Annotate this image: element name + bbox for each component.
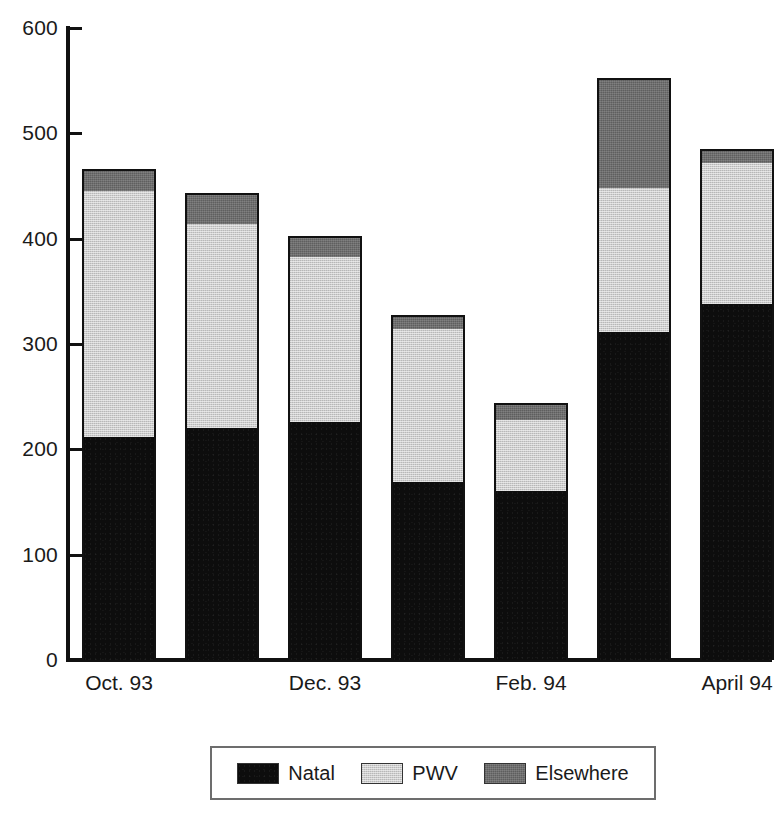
legend-item[interactable]: PWV	[361, 763, 458, 784]
x-axis-label: April 94	[682, 672, 778, 693]
bar-segment-elsewhere	[700, 149, 774, 163]
legend-item[interactable]: Natal	[237, 763, 335, 784]
bar-segment-natal	[597, 332, 671, 660]
bar-segment-pwv	[391, 329, 465, 482]
legend-label: PWV	[412, 763, 458, 783]
bar-segment-natal	[391, 482, 465, 660]
bar-segment-pwv	[288, 257, 362, 422]
bar-segment-pwv	[185, 224, 259, 428]
legend-item[interactable]: Elsewhere	[484, 763, 628, 784]
bar-segment-elsewhere	[82, 169, 156, 191]
bar-segment-natal	[700, 304, 774, 660]
bar-segment-elsewhere	[597, 78, 671, 189]
x-axis-label: Oct. 93	[64, 672, 174, 693]
legend-label: Natal	[288, 763, 335, 783]
bar-segment-elsewhere	[288, 236, 362, 257]
bar-column	[597, 78, 671, 660]
bar-segment-natal	[185, 428, 259, 660]
chart-legend: NatalPWVElsewhere	[210, 746, 656, 800]
bar-segment-pwv	[597, 188, 671, 332]
natal-swatch	[237, 763, 279, 784]
stacked-bar-chart: 6005004003002001000 Oct. 93Dec. 93Feb. 9…	[0, 0, 778, 822]
x-axis-label: Dec. 93	[270, 672, 380, 693]
elsewhere-swatch	[484, 763, 526, 784]
bar-segment-pwv	[494, 420, 568, 492]
bar-segment-natal	[288, 422, 362, 660]
bar-segment-natal	[82, 437, 156, 660]
bar-column	[185, 193, 259, 660]
x-axis-label: Feb. 94	[476, 672, 586, 693]
bar-segment-elsewhere	[185, 193, 259, 224]
bars-layer	[0, 0, 778, 822]
bar-column	[700, 149, 774, 660]
bar-column	[391, 315, 465, 660]
bar-segment-pwv	[82, 191, 156, 436]
legend-label: Elsewhere	[535, 763, 628, 783]
pwv-swatch	[361, 763, 403, 784]
bar-segment-natal	[494, 491, 568, 660]
bar-segment-elsewhere	[391, 315, 465, 330]
bar-column	[82, 169, 156, 660]
bar-segment-pwv	[700, 163, 774, 304]
bar-segment-elsewhere	[494, 403, 568, 420]
bar-column	[494, 403, 568, 660]
bar-column	[288, 236, 362, 660]
